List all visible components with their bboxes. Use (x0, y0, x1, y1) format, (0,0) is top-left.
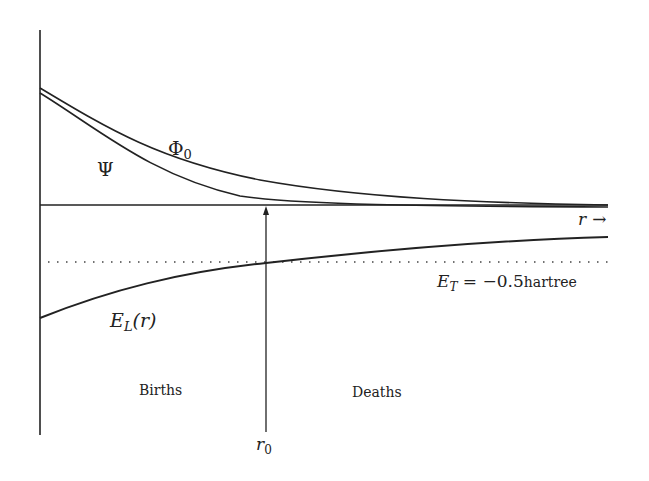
el-label: EL(r) (109, 309, 156, 334)
phi0-curve (40, 88, 608, 205)
r0-label: r0 (256, 434, 272, 457)
births-label: Births (139, 382, 182, 398)
psi-label: Ψ (97, 158, 114, 180)
phi0-label: Φ0 (168, 137, 192, 162)
dmc-diagram: Φ0 Ψ r→ EL(r) ET = −0.5hartree Births De… (0, 0, 649, 481)
et-label: ET = −0.5hartree (436, 271, 577, 294)
deaths-label: Deaths (352, 384, 402, 400)
r0-arrowhead-icon (263, 206, 269, 215)
r-axis-label: r→ (578, 209, 606, 229)
